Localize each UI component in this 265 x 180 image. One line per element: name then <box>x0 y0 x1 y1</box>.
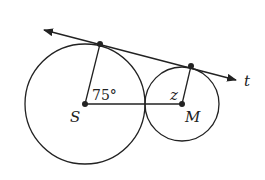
tangent-point-small <box>188 63 194 69</box>
angle-label-z: z <box>169 86 178 104</box>
angle-label-75: 75° <box>92 87 117 103</box>
point-m <box>179 101 185 107</box>
radius-m <box>182 66 191 104</box>
label-t: t <box>244 72 251 90</box>
label-s: S <box>70 108 80 126</box>
tangent-point-large <box>97 41 103 47</box>
geometry-diagram: 75° z S M t <box>0 0 265 180</box>
tangent-line-t <box>44 30 236 80</box>
label-m: M <box>184 108 201 126</box>
point-s <box>82 101 88 107</box>
